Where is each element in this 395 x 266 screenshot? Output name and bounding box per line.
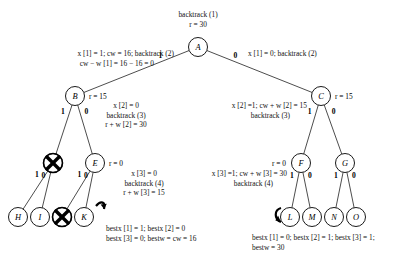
node-f-r-label: r = 0 [272, 159, 286, 168]
arrow-head-k [101, 204, 107, 209]
node-letter: B [72, 92, 77, 101]
tree-node-h: H [9, 208, 28, 227]
tree-node-f: F [292, 154, 311, 173]
edge-label-e-k: 0 [84, 171, 88, 180]
node-b-r-label: r = 15 [89, 92, 107, 101]
mid-level2-annotation-line2: backtrack (3) [88, 111, 164, 120]
node-letter: G [342, 159, 348, 168]
tree-node-b: B [66, 87, 85, 106]
tree-node-i: I [31, 208, 50, 227]
bottom-right-best-line1: bestx [1] = 0; bestx [2] = 1; bestx [3] … [252, 233, 375, 242]
curved-arrows [96, 202, 281, 222]
tree-node-l: L [281, 208, 300, 227]
node-letter: F [297, 159, 304, 168]
tree-node-o: O [347, 208, 366, 227]
left-level1-annotation-line1: x [1] = 1; cw = 16; backtrack (2) [8, 49, 174, 58]
tree-node-e: E [86, 154, 105, 173]
root-r-label: r = 30 [160, 20, 236, 29]
tree-node-k: K [75, 208, 94, 227]
edge-label-g-o: 0 [352, 171, 356, 180]
edge-label-f-m: 0 [308, 171, 312, 180]
edge-label-c-g: 0 [332, 107, 336, 116]
right-level2-annotation-line2: backtrack (3) [186, 111, 290, 120]
tree-node-n: N [325, 208, 344, 227]
tree-node-m: M [303, 208, 322, 227]
backtracking-tree-diagram: 10101010101010 ABCEFGHIKLMNO [0, 0, 395, 266]
edge-label-a-c: 0 [234, 51, 238, 60]
left-level1-annotation-line2: cw − w [1] = 16 − 16 = 0 [8, 59, 154, 68]
edge-label-d-i: 0 [41, 171, 45, 180]
right-level2-annotation-line1: x [2] =1; cw + w [2] = 15 [186, 101, 307, 110]
mid-level2-annotation-line3: r + w [2] = 30 [88, 120, 164, 129]
edge-label-g-n: 1 [334, 171, 338, 180]
node-letter: O [353, 213, 359, 222]
right-level3-annotation-line1: x [3] =1; cw + w [3] = 30 [168, 169, 287, 178]
tree-node-j [53, 208, 72, 227]
edge-label-e-j: 1 [78, 170, 82, 179]
bottom-left-best-line1: bestx [1] = 1; bestx [2] = 0 [106, 224, 185, 233]
node-letter: K [80, 213, 87, 222]
edge-label-b-d: 1 [61, 107, 65, 116]
mid-level3-annotation-line3: r + w [3] = 15 [108, 188, 180, 197]
bottom-right-best-line2: bestw = 30 [252, 243, 285, 252]
edge-label-d-h: 1 [35, 170, 39, 179]
bottom-left-best-line2: bestx [3] = 0; bestw = cw = 16 [106, 234, 197, 243]
right-level3-annotation-line2: backtrack (4) [168, 179, 273, 188]
node-e-r-label: r = 0 [109, 159, 123, 168]
tree-node-g: G [336, 154, 355, 173]
right-level1-annotation: x [1] = 0; backtrack (2) [248, 49, 317, 58]
node-letter: L [287, 213, 293, 222]
mid-level2-annotation-line1: x [2] = 0 [88, 101, 164, 110]
node-letter: C [318, 92, 324, 101]
edge-label-c-f: 1 [308, 107, 312, 116]
tree-node-d [44, 154, 63, 173]
node-letter: N [330, 213, 337, 222]
node-letter: H [14, 213, 22, 222]
node-c-r-label: r = 15 [335, 92, 353, 101]
edge-label-f-l: 1 [290, 171, 294, 180]
root-backtrack-label: backtrack (1) [160, 10, 236, 19]
node-letter: E [91, 159, 97, 168]
tree-node-c: C [312, 87, 331, 106]
tree-node-a: A [189, 38, 208, 57]
node-letter: M [308, 213, 317, 222]
node-letter: A [194, 43, 201, 52]
